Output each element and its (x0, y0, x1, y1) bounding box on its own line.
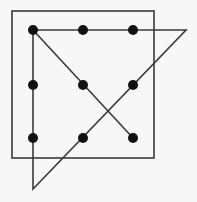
dot (28, 133, 38, 143)
dot (78, 25, 88, 35)
solution-line (33, 30, 186, 189)
dot (128, 80, 138, 90)
dot (28, 80, 38, 90)
dot (128, 133, 138, 143)
nine-dot-diagram (0, 0, 197, 202)
dot (28, 25, 38, 35)
dot (78, 133, 88, 143)
dot (128, 25, 138, 35)
dot (78, 80, 88, 90)
